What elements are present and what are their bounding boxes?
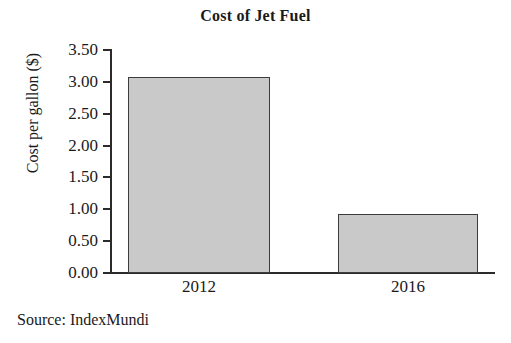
bar-chart-figure: Cost of Jet Fuel Cost per gallon ($) 3.5… bbox=[0, 0, 511, 343]
y-tick-mark bbox=[103, 240, 111, 242]
chart-title: Cost of Jet Fuel bbox=[0, 6, 511, 26]
y-tick-label: 2.00 bbox=[38, 137, 98, 154]
y-tick-label: 3.00 bbox=[38, 73, 98, 90]
y-tick-mark bbox=[103, 272, 111, 274]
y-tick-mark bbox=[103, 208, 111, 210]
source-note: Source: IndexMundi bbox=[17, 310, 149, 330]
y-tick-mark bbox=[103, 81, 111, 83]
bar-2012 bbox=[128, 77, 270, 273]
y-tick-label: 1.50 bbox=[38, 168, 98, 185]
y-tick-label: 3.50 bbox=[38, 41, 98, 58]
y-tick-mark bbox=[103, 145, 111, 147]
y-tick-label: 2.50 bbox=[38, 105, 98, 122]
bar-2016 bbox=[338, 214, 478, 273]
y-tick-mark bbox=[103, 49, 111, 51]
x-tick-label-2012: 2012 bbox=[159, 277, 239, 297]
y-tick-label: 0.00 bbox=[38, 264, 98, 281]
y-tick-mark bbox=[103, 176, 111, 178]
y-tick-label: 1.00 bbox=[38, 200, 98, 217]
x-tick-label-2016: 2016 bbox=[368, 277, 448, 297]
y-tick-label: 0.50 bbox=[38, 232, 98, 249]
y-tick-mark bbox=[103, 113, 111, 115]
